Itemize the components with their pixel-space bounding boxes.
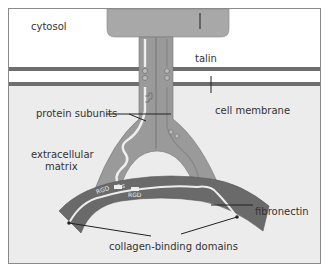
label-cytosol: cytosol (31, 21, 67, 33)
integrin-diagram (9, 9, 321, 264)
label-protein-subunits: protein subunits (36, 108, 117, 120)
label-ss: S S (117, 180, 125, 192)
label-talin: talin (195, 53, 217, 65)
label-cell-membrane: cell membrane (215, 105, 290, 117)
diagram-frame: cytosol talin protein subunits cell memb… (8, 8, 321, 264)
label-rgd-right: RGD (128, 189, 141, 201)
label-fibronectin: fibronectin (255, 206, 309, 218)
label-collagen-binding-domains: collagen-binding domains (109, 241, 238, 253)
talin-shape (107, 9, 229, 37)
label-extracellular-line2: matrix (45, 161, 78, 173)
label-extracellular-line1: extracellular (31, 149, 94, 161)
